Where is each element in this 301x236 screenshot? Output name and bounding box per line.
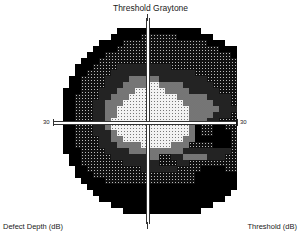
left-axis-label: 30 — [43, 119, 50, 125]
vertical-axis-top-tick — [147, 14, 148, 21]
horizontal-axis-right-tick — [237, 119, 238, 126]
graytone-cell — [207, 202, 213, 208]
graytone-cell — [195, 208, 201, 214]
horizontal-axis — [54, 121, 236, 125]
chart-title: Threshold Graytone — [0, 3, 301, 13]
graytone-cell — [231, 184, 237, 190]
defect-depth-label: Defect Depth (dB) — [3, 222, 63, 231]
graytone-cell — [225, 190, 231, 196]
graytone-cell — [219, 196, 225, 202]
threshold-label: Threshold (dB) — [247, 222, 297, 231]
horizontal-axis-left-tick — [53, 119, 54, 126]
vertical-axis-bottom-tick — [147, 222, 148, 229]
right-axis-label: 30 — [240, 119, 247, 125]
